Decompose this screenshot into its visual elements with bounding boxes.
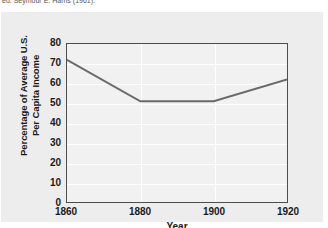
data-line xyxy=(67,60,287,101)
plot-inner xyxy=(67,44,287,202)
x-axis-tick-label: 1900 xyxy=(190,206,238,218)
y-axis-tick-label: 80 xyxy=(31,38,61,48)
y-axis-tick-label: 40 xyxy=(31,118,61,128)
y-axis-tick-label: 10 xyxy=(31,178,61,188)
y-axis-tick-label: 50 xyxy=(31,98,61,108)
x-axis-tick-label: 1860 xyxy=(42,206,90,218)
y-axis-tick-label: 30 xyxy=(31,138,61,148)
y-axis-tick-label: 60 xyxy=(31,78,61,88)
plot-area xyxy=(66,43,288,203)
x-axis-tick-labels: 1860188019001920 xyxy=(66,206,288,220)
x-axis-title: Year xyxy=(66,221,288,228)
y-axis-tick-label: 20 xyxy=(31,158,61,168)
source-citation-text: ed. Seymour E. Harris (1961). xyxy=(2,0,242,5)
x-axis-tick-label: 1880 xyxy=(116,206,164,218)
figure-panel: Percentage of Average U.S. Per Capita In… xyxy=(1,12,323,222)
data-series-line xyxy=(67,44,287,202)
y-axis-tick-label: 70 xyxy=(31,58,61,68)
y-axis-title-line-1: Percentage of Average U.S. xyxy=(18,20,30,172)
y-axis-tick-labels: 01020304050607080 xyxy=(31,43,61,203)
x-axis-tick-label: 1920 xyxy=(264,206,312,218)
